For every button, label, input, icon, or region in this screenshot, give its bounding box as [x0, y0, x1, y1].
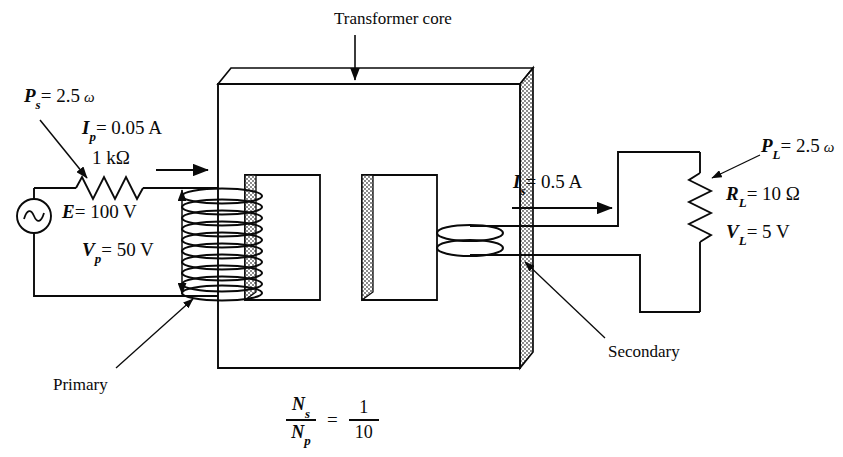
emf-value: = 100 V	[75, 201, 137, 222]
emf-label: E= 100 V	[62, 202, 137, 221]
turns-ratio-value-fraction: 1 10	[349, 398, 379, 441]
core-top-face	[218, 68, 533, 84]
load-power-label: PL= 2.5 ω	[761, 136, 834, 158]
turns-ratio-formula: Ns Np = 1 10	[286, 395, 379, 445]
load-resistance-symbol: R	[726, 183, 739, 204]
ac-source	[17, 199, 51, 233]
load-voltage-symbol: V	[726, 221, 739, 242]
source-power-subscript: s	[36, 97, 41, 112]
turns-ratio-denominator-subscript: p	[304, 433, 311, 448]
source-power-unit: ω	[84, 89, 95, 105]
turns-ratio-denominator-symbol: N	[291, 422, 304, 442]
transformer-core	[218, 68, 533, 368]
turns-ratio-value-denominator: 10	[352, 423, 376, 442]
core-window-right-inner-face	[362, 175, 373, 300]
load-power-subscript: L	[773, 147, 781, 162]
transformer-diagram-canvas	[0, 0, 843, 457]
secondary-current-label: Is= 0.5 A	[513, 172, 582, 194]
source-power-value: = 2.5	[41, 85, 80, 106]
turns-ratio-numerator: Ns	[289, 395, 313, 417]
load-resistance-subscript: L	[739, 195, 747, 210]
core-window-left-inner-face	[245, 175, 256, 300]
primary-label: Primary	[53, 376, 108, 393]
source-power-label: Ps= 2.5 ω	[24, 86, 94, 108]
load-power-value: = 2.5	[781, 135, 820, 156]
series-resistor-symbol	[76, 177, 143, 199]
load-voltage-label: VL= 5 V	[726, 222, 790, 244]
turns-ratio-value-fraction-bar	[349, 419, 379, 421]
load-power-unit: ω	[824, 139, 835, 155]
turns-ratio-equals: =	[327, 409, 338, 431]
turns-ratio-numerator-symbol: N	[292, 394, 305, 414]
turns-ratio-fraction-bar	[286, 419, 316, 421]
series-resistor-label: 1 kΩ	[92, 148, 130, 167]
turns-ratio-denominator: Np	[288, 423, 314, 445]
load-resistance-label: RL= 10 Ω	[726, 184, 800, 206]
primary-voltage-value: = 50 V	[101, 239, 154, 260]
load-resistance-value: = 10 Ω	[747, 183, 800, 204]
primary-voltage-subscript: p	[95, 251, 102, 266]
source-power-symbol: P	[24, 85, 36, 106]
turns-ratio-fraction: Ns Np	[286, 395, 316, 445]
secondary-label: Secondary	[608, 343, 680, 360]
secondary-leader-arrow	[525, 262, 605, 338]
core-right-face	[520, 68, 533, 368]
emf-symbol: E	[62, 201, 75, 222]
secondary-current-subscript: s	[520, 183, 525, 198]
load-voltage-value: = 5 V	[747, 221, 790, 242]
load-resistor-symbol	[689, 173, 711, 242]
turns-ratio-value-numerator: 1	[356, 398, 371, 417]
turns-ratio-numerator-subscript: s	[305, 406, 310, 421]
figure-root: Transformer core Ps= 2.5 ω Ip= 0.05 A 1 …	[0, 0, 843, 457]
primary-current-value: = 0.05 A	[96, 117, 162, 138]
load-power-leader-arrow	[712, 155, 760, 178]
transformer-core-label: Transformer core	[334, 10, 452, 27]
primary-current-label: Ip= 0.05 A	[82, 118, 162, 140]
load-voltage-subscript: L	[739, 233, 747, 248]
source-power-leader-arrow	[40, 120, 87, 178]
primary-leader-arrow	[116, 299, 193, 368]
load-power-symbol: P	[761, 135, 773, 156]
secondary-current-value: = 0.5 A	[525, 171, 582, 192]
primary-voltage-symbol: V	[82, 239, 95, 260]
primary-voltage-label: Vp= 50 V	[82, 240, 154, 262]
primary-current-subscript: p	[89, 129, 96, 144]
